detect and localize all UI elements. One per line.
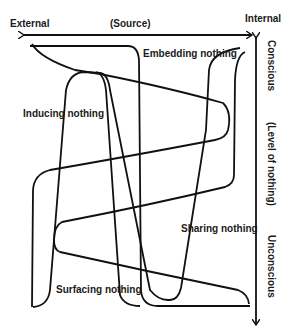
label-inducing-nothing: Inducing nothing — [23, 109, 104, 119]
label-embedding-nothing: Embedding nothing — [143, 49, 237, 59]
label-sharing-nothing: Sharing nothing — [181, 224, 258, 234]
curve-horizontal-zigzag-lower — [54, 52, 249, 304]
axis-label-source: (Source) — [110, 19, 151, 29]
curve-embedding — [30, 46, 250, 306]
axis-label-unconscious: Unconscious — [266, 235, 276, 298]
axis-label-conscious: Conscious — [266, 40, 276, 91]
axis-label-internal: Internal — [245, 14, 281, 24]
axis-label-level-of-nothing: (Level of nothing) — [266, 122, 276, 206]
label-surfacing-nothing: Surfacing nothing — [56, 285, 142, 295]
axis-label-external: External — [10, 19, 49, 29]
